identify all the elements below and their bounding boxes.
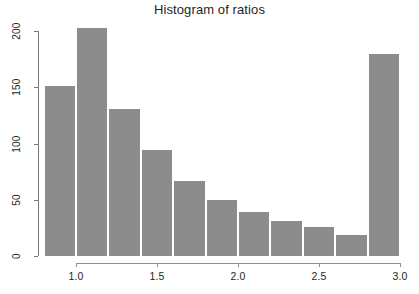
x-axis-tick xyxy=(319,263,320,267)
histogram-bar xyxy=(173,181,205,256)
x-axis-tick-label: 2.0 xyxy=(218,270,258,282)
y-axis-tick xyxy=(34,200,38,201)
y-axis-line xyxy=(38,31,39,256)
histogram-bar xyxy=(141,150,173,256)
y-axis-tick-label: 100 xyxy=(11,129,23,159)
histogram-bar xyxy=(270,221,302,256)
histogram-bar xyxy=(206,200,238,256)
histogram-figure: Histogram of ratios 050100150200 1.01.52… xyxy=(0,0,419,294)
histogram-bar xyxy=(108,109,140,256)
x-axis-tick xyxy=(238,263,239,267)
y-axis-tick-label: 50 xyxy=(11,185,23,215)
x-axis-tick xyxy=(76,263,77,267)
y-axis-tick xyxy=(34,87,38,88)
histogram-bar xyxy=(368,54,400,257)
x-axis-tick-label: 1.5 xyxy=(137,270,177,282)
histogram-bar xyxy=(238,212,270,256)
y-axis-tick-label: 0 xyxy=(11,241,23,271)
bars-layer xyxy=(0,0,419,294)
y-axis-tick xyxy=(34,144,38,145)
y-axis-tick xyxy=(34,256,38,257)
histogram-bar xyxy=(335,235,367,256)
plot-area: 050100150200 1.01.52.02.53.0 xyxy=(0,0,419,294)
x-axis-tick-label: 2.5 xyxy=(299,270,339,282)
x-axis-tick-label: 1.0 xyxy=(56,270,96,282)
x-axis-tick xyxy=(400,263,401,267)
histogram-bar xyxy=(303,227,335,256)
histogram-bar xyxy=(44,86,76,256)
y-axis-tick-label: 150 xyxy=(11,72,23,102)
histogram-bar xyxy=(76,28,108,256)
y-axis-tick xyxy=(34,31,38,32)
x-axis-tick-label: 3.0 xyxy=(380,270,419,282)
y-axis-tick-label: 200 xyxy=(11,16,23,46)
x-axis-tick xyxy=(157,263,158,267)
